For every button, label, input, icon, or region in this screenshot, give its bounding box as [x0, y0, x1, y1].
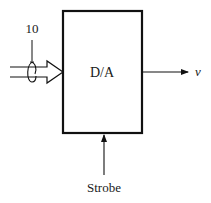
- bus-width-loop-icon: [28, 62, 36, 82]
- input-bus-arrow: [10, 61, 63, 83]
- output-label: v: [195, 64, 201, 79]
- da-converter-diagram: D/A 10 v Strobe: [0, 0, 211, 203]
- strobe-label: Strobe: [87, 180, 121, 195]
- bus-width-label: 10: [26, 21, 39, 36]
- block-label: D/A: [90, 65, 115, 80]
